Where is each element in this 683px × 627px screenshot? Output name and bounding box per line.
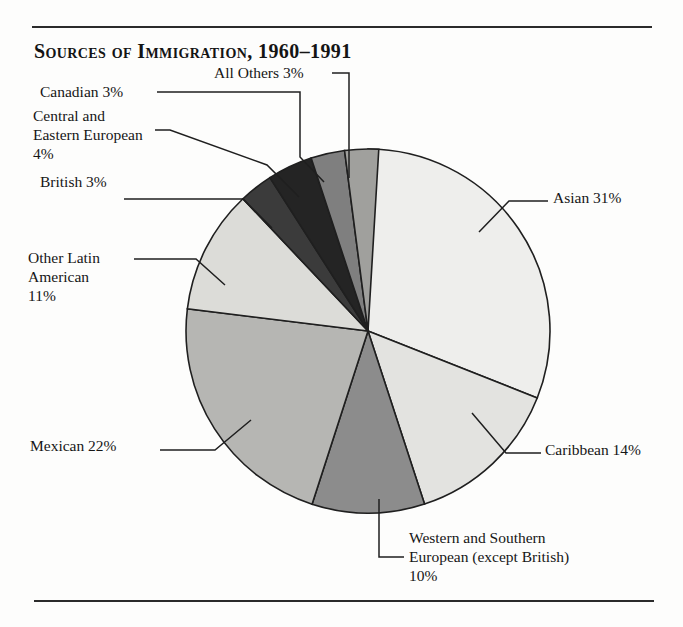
pie-slices-group — [186, 149, 550, 513]
slice-label-british: British 3% — [40, 172, 107, 191]
slice-label-mexican: Mexican 22% — [30, 436, 117, 455]
slice-label-western-southern-european: Western and Southern European (except Br… — [409, 528, 569, 585]
slice-label-caribbean: Caribbean 14% — [545, 440, 641, 459]
bottom-rule — [34, 600, 654, 602]
slice-label-all-others: All Others 3% — [214, 63, 304, 82]
slice-label-canadian: Canadian 3% — [40, 82, 123, 101]
slice-label-central-eastern-european: Central and Eastern European 4% — [33, 106, 143, 163]
slice-label-other-latin-american: Other Latin American 11% — [28, 248, 100, 305]
slice-label-asian: Asian 31% — [553, 188, 621, 207]
figure-container: Sources of Immigration, 1960–1991 — [0, 0, 683, 627]
